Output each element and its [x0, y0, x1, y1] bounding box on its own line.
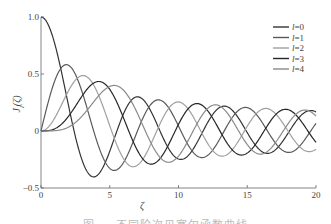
- x-tick-label: 20: [312, 190, 322, 200]
- x-axis-title: ζ: [140, 200, 145, 212]
- x-tick-label: 10: [174, 190, 184, 200]
- y-tick-label: 0: [35, 126, 40, 136]
- series-line-l0: [41, 17, 316, 177]
- series-line-l1: [41, 65, 316, 171]
- x-ticks: 05101520: [39, 185, 321, 200]
- x-tick-label: 5: [108, 190, 113, 200]
- y-tick-label: 1.0: [28, 12, 40, 22]
- legend-label: l=4: [292, 64, 305, 74]
- chart: −0.500.51.0 05101520 ζ Jl(ζ) l=0l=1l=2l=…: [0, 0, 331, 224]
- legend-label: l=2: [292, 43, 304, 53]
- y-axis-title-arg: (ζ): [11, 95, 23, 106]
- legend: l=0l=1l=2l=3l=4: [273, 22, 305, 74]
- y-tick-label: −0.5: [23, 183, 40, 193]
- x-tick-label: 0: [39, 190, 44, 200]
- legend-label: l=3: [292, 54, 305, 64]
- legend-label: l=0: [292, 22, 305, 32]
- y-tick-label: 0.5: [28, 69, 40, 79]
- y-axis-title: Jl(ζ): [11, 95, 26, 113]
- curves-layer: [41, 17, 316, 177]
- x-tick-label: 15: [243, 190, 253, 200]
- figure-caption: 图 — 不同阶次贝塞尔函数曲线: [0, 216, 331, 224]
- series-line-l2: [41, 76, 316, 167]
- legend-label: l=1: [292, 33, 304, 43]
